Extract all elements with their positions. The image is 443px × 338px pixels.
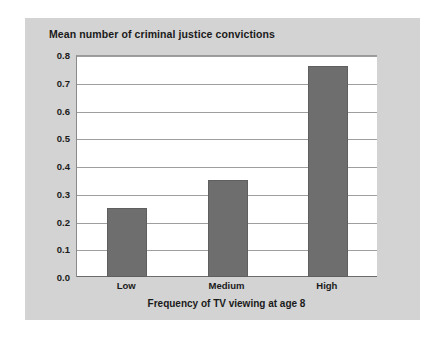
- bar-medium: [208, 180, 248, 277]
- y-axis-tick-label: 0.5: [57, 133, 70, 144]
- bar-high: [308, 66, 348, 277]
- y-axis-tick-label: 0.7: [57, 77, 70, 88]
- y-axis-tick-label: 0.6: [57, 105, 70, 116]
- y-axis-tick-label: 0.8: [57, 50, 70, 61]
- chart-figure: Mean number of criminal justice convicti…: [0, 0, 443, 338]
- x-axis-title: Frequency of TV viewing at age 8: [76, 298, 377, 309]
- y-axis-tick-label: 0.0: [57, 272, 70, 283]
- y-axis-tick-label: 0.1: [57, 244, 70, 255]
- x-axis-tick-label: Low: [117, 280, 136, 291]
- gridline: [77, 56, 377, 57]
- y-axis-tick-labels: 0.80.70.60.50.40.30.20.10.0: [25, 55, 70, 277]
- y-axis-tick-label: 0.4: [57, 161, 70, 172]
- bar-low: [107, 208, 147, 277]
- y-axis-tick-label: 0.2: [57, 216, 70, 227]
- chart-panel: Mean number of criminal justice convicti…: [25, 18, 420, 320]
- x-axis-tick-label: High: [316, 280, 337, 291]
- x-axis-tick-label: Medium: [209, 280, 245, 291]
- y-axis-tick-label: 0.3: [57, 188, 70, 199]
- plot-area: [76, 55, 377, 277]
- chart-title: Mean number of criminal justice convicti…: [49, 28, 275, 40]
